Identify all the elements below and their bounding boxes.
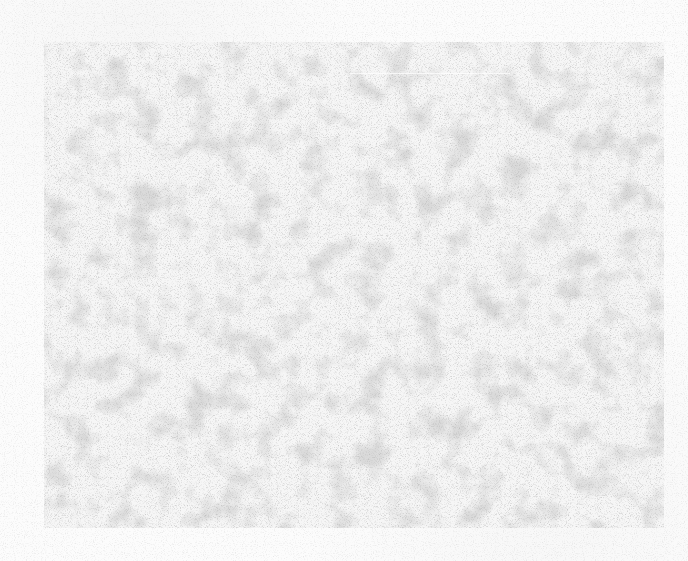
faint-horizontal-streak [350, 73, 510, 74]
noise-panel [44, 42, 664, 528]
noise-texture [44, 42, 664, 528]
noise-canvas [0, 0, 688, 561]
